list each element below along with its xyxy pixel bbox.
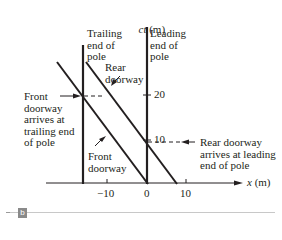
- x-tick-label-10: 10: [180, 187, 191, 199]
- y-tick-label-10: 10: [154, 133, 165, 145]
- y-tick-label-20: 20: [154, 88, 165, 100]
- panel-tag: b: [18, 208, 27, 218]
- rear-pointer-arrow-icon: [181, 140, 189, 145]
- x-axis-arrow-icon: [234, 181, 243, 186]
- x-tick-label-0: 0: [144, 187, 150, 199]
- rear-arrives-label: Rear doorway arrives at leading end of p…: [200, 137, 276, 172]
- leading-end-label: Leading end of pole: [150, 28, 186, 63]
- x-axis-label: x (m): [247, 177, 271, 189]
- panel-rule: [10, 212, 275, 213]
- trailing-end-label: Trailing end of pole: [87, 28, 122, 63]
- front-doorway-label: Front doorway: [88, 151, 127, 174]
- front-label-pointer: [95, 140, 101, 146]
- x-tick-label-neg10: −10: [97, 187, 114, 199]
- rear-doorway-label: Rear doorway: [105, 62, 144, 85]
- front-arrives-label: Front doorway arrives at trailing end of…: [24, 91, 74, 149]
